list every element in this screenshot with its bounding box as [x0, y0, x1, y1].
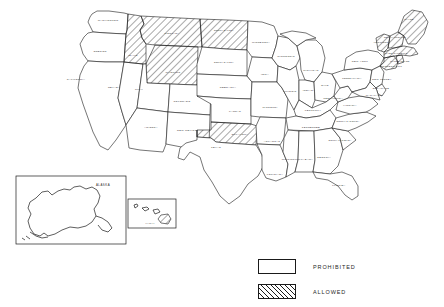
- state-label-illinois: ILLINOIS: [283, 90, 296, 93]
- state-label-georgia: GEORGIA: [317, 156, 331, 159]
- state-label-arizona: ARIZONA: [144, 126, 158, 129]
- state-label-vermont: VERMONT: [374, 41, 389, 44]
- state-label-north-dakota: NORTH DAKOTA: [214, 29, 234, 31]
- state-label-kentucky: KENTUCKY: [305, 109, 321, 112]
- state-north-dakota[interactable]: [200, 19, 248, 50]
- state-label-virginia: VIRGINIA: [343, 104, 357, 107]
- allowed-swatch: [258, 284, 296, 299]
- state-label-alabama: ALABAMA: [299, 158, 313, 161]
- state-label-new-mexico: NEW MEXICO: [177, 129, 197, 132]
- state-label-louisiana: LOUISIANA: [267, 173, 284, 176]
- state-label-utah: UTAH: [135, 88, 143, 91]
- state-label-iowa: IOWA: [261, 73, 269, 76]
- state-label-nevada: NEVADA: [108, 86, 120, 89]
- state-label-wisconsin: WISCONSIN: [277, 55, 295, 58]
- map-page: WASHINGTONOREGONCALIFORNIANEVADAIDAHOMON…: [0, 0, 444, 307]
- hawaii-inset-label: HAWAII: [145, 222, 154, 224]
- hawaii-inset: HAWAII: [128, 199, 176, 228]
- state-label-arkansas: ARKANSAS: [264, 140, 280, 143]
- state-label-maryland: MARYLAND: [366, 94, 383, 97]
- state-label-montana: MONTANA: [165, 32, 180, 35]
- state-label-colorado: COLORADO: [173, 100, 190, 103]
- state-label-new-jersey: NEW JERSEY: [372, 78, 392, 81]
- state-label-connecticut: CONNECTICUT: [380, 65, 402, 68]
- state-label-kansas: KANSAS: [229, 110, 241, 113]
- state-label-pennsylvania: PENNSYLVANIA: [342, 77, 362, 79]
- state-wyoming[interactable]: [146, 45, 198, 85]
- alaska-inset-label: ALASKA: [96, 183, 110, 187]
- us-map-figure: WASHINGTONOREGONCALIFORNIANEVADAIDAHOMON…: [0, 0, 444, 307]
- state-label-delaware: DELAWARE: [373, 87, 390, 90]
- legend-row-allowed: ALLOWED: [258, 283, 356, 300]
- state-label-indiana: INDIANA: [303, 89, 316, 92]
- state-label-west-virginia: WEST VIRGINIA: [323, 97, 343, 99]
- state-label-ohio: OHIO: [321, 84, 329, 87]
- state-label-minnesota: MINNESOTA: [252, 41, 270, 44]
- state-iowa[interactable]: [247, 57, 278, 82]
- state-label-oklahoma: OKLAHOMA: [232, 133, 249, 136]
- state-label-massachusetts: MASSACHUSETTS: [385, 52, 408, 54]
- state-label-michigan: MICHIGAN: [303, 69, 318, 72]
- state-polygons: [78, 10, 428, 204]
- state-label-texas: TEXAS: [211, 146, 221, 149]
- state-label-missouri: MISSOURI: [262, 106, 277, 109]
- state-label-mississippi: MISSISSIPPI: [282, 158, 301, 161]
- alaska-inset: ALASKA: [16, 176, 126, 244]
- state-label-oregon: OREGON: [93, 50, 106, 53]
- state-label-california: CALIFORNIA: [67, 78, 86, 81]
- state-label-rhode-island: RHODE ISLAND: [390, 60, 410, 62]
- state-label-tennessee: TENNESSEE: [302, 126, 320, 129]
- state-label-wyoming: WYOMING: [166, 71, 181, 74]
- state-label-north-carolina: NORTH CAROLINA: [336, 120, 359, 122]
- state-california[interactable]: [78, 61, 126, 150]
- state-label-maine: MAINE: [404, 18, 414, 21]
- state-washington[interactable]: [88, 11, 128, 34]
- state-label-florida: FLORIDA: [332, 184, 345, 187]
- state-label-washington: WASHINGTON: [98, 19, 119, 22]
- legend-label-allowed: ALLOWED: [313, 289, 346, 295]
- state-label-new-hampshire: NEW HAMPSHIRE: [384, 36, 406, 38]
- state-label-new-york: NEW YORK: [352, 60, 368, 63]
- legend-row-prohibited: PROHIBITED: [258, 258, 356, 275]
- state-oregon[interactable]: [80, 32, 126, 62]
- state-label-south-dakota: SOUTH DAKOTA: [214, 61, 234, 63]
- legend: PROHIBITED ALLOWED: [258, 258, 356, 307]
- state-minnesota[interactable]: [247, 21, 278, 58]
- prohibited-swatch: [258, 259, 296, 274]
- legend-label-prohibited: PROHIBITED: [313, 264, 356, 270]
- state-label-south-carolina: SOUTH CAROLINA: [329, 139, 352, 141]
- state-label-nebraska: NEBRASKA: [220, 86, 236, 89]
- state-label-idaho: IDAHO: [128, 54, 138, 57]
